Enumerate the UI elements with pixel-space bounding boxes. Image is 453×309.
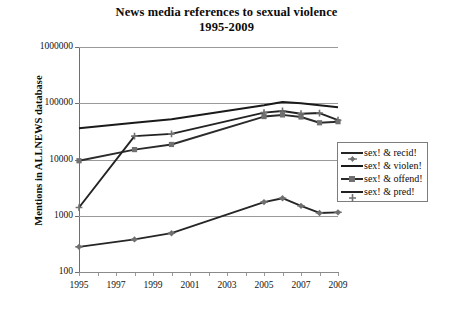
chart-title-line-1: News media references to sexual violence — [116, 5, 338, 19]
x-tick-label: 2001 — [169, 280, 211, 290]
series-lines — [79, 47, 338, 272]
x-tick-mark — [338, 273, 339, 276]
x-tick-label: 1995 — [58, 280, 100, 290]
legend-swatch-icon — [341, 160, 363, 172]
legend-swatch-icon — [341, 147, 363, 159]
x-tick-mark — [227, 273, 228, 276]
x-tick-mark — [135, 273, 136, 276]
x-tick-mark — [98, 273, 99, 276]
x-tick-mark — [301, 273, 302, 276]
plot-area — [79, 47, 338, 272]
legend-items: sex! & recid!sex! & violen!sex! & offend… — [341, 146, 423, 198]
chart-container: News media references to sexual violence… — [0, 0, 453, 309]
legend-item[interactable]: sex! & offend! — [341, 172, 423, 185]
x-tick-mark — [320, 273, 321, 276]
legend-label: sex! & offend! — [363, 173, 423, 184]
y-tick-label: 10000 — [3, 154, 73, 164]
x-tick-label: 2005 — [243, 280, 285, 290]
legend-item[interactable]: sex! & recid! — [341, 146, 423, 159]
x-tick-mark — [190, 273, 191, 276]
legend-swatch-icon — [341, 173, 363, 185]
x-tick-mark — [264, 273, 265, 276]
y-tick-label: 1000000 — [3, 41, 73, 51]
x-tick-label: 2007 — [280, 280, 322, 290]
x-tick-label: 1999 — [132, 280, 174, 290]
y-tick-label: 100000 — [3, 97, 73, 107]
x-tick-mark — [172, 273, 173, 276]
chart-title-line-2: 1995-2009 — [0, 20, 453, 35]
x-tick-mark — [246, 273, 247, 276]
legend-item[interactable]: sex! & violen! — [341, 159, 423, 172]
x-tick-label: 2009 — [317, 280, 359, 290]
legend-swatch-icon — [341, 186, 363, 198]
legend-label: sex! & recid! — [363, 147, 417, 158]
y-tick-label: 1000 — [3, 210, 73, 220]
x-tick-mark — [116, 273, 117, 276]
x-tick-mark — [209, 273, 210, 276]
x-tick-mark — [153, 273, 154, 276]
legend-label: sex! & pred! — [363, 186, 415, 197]
x-tick-mark — [283, 273, 284, 276]
chart-title: News media references to sexual violence… — [0, 5, 453, 35]
x-tick-label: 2003 — [206, 280, 248, 290]
x-tick-mark — [79, 273, 80, 276]
y-tick-label: 100 — [3, 266, 73, 276]
chart-legend: sex! & recid!sex! & violen!sex! & offend… — [337, 142, 428, 202]
legend-label: sex! & violen! — [363, 160, 422, 171]
series-3 — [76, 108, 342, 211]
x-tick-label: 1997 — [95, 280, 137, 290]
series-0 — [75, 195, 342, 250]
series-2 — [76, 112, 340, 163]
legend-item[interactable]: sex! & pred! — [341, 185, 423, 198]
